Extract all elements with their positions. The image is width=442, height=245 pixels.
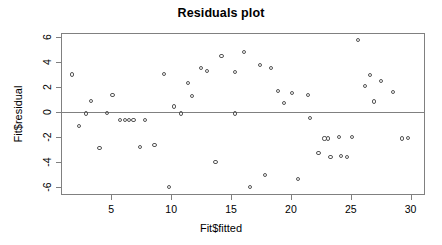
y-axis-tick-label: 4 — [41, 59, 53, 65]
residuals-scatter-plot: Residuals plot 6420-2-4-6 51015202530 Fi… — [0, 0, 442, 245]
y-axis-tick-mark — [56, 87, 61, 88]
scatter-point — [233, 111, 237, 115]
scatter-point — [306, 93, 310, 97]
zero-reference-line — [61, 112, 425, 113]
scatter-point — [326, 136, 330, 140]
scatter-point — [190, 94, 194, 98]
y-axis-tick-label: -4 — [41, 158, 53, 167]
x-axis-tick-mark — [231, 195, 232, 200]
x-axis-tick-mark — [171, 195, 172, 200]
plot-frame — [61, 33, 425, 195]
x-axis-tick-mark — [291, 195, 292, 200]
y-axis-tick-mark — [56, 112, 61, 113]
page-title: Residuals plot — [0, 6, 442, 20]
scatter-point — [167, 185, 171, 189]
y-axis-tick-label: 0 — [41, 109, 53, 115]
y-axis-tick-mark — [56, 137, 61, 138]
scatter-point — [70, 72, 74, 76]
y-axis-tick-mark — [56, 37, 61, 38]
y-axis-label: Fit$residual — [12, 86, 24, 143]
y-axis-tick-mark — [56, 62, 61, 63]
scatter-point — [282, 101, 286, 105]
scatter-point — [110, 93, 114, 97]
scatter-point — [379, 79, 383, 83]
scatter-point — [172, 104, 176, 108]
y-axis-tick-label: -6 — [41, 183, 53, 192]
scatter-point — [316, 151, 320, 155]
scatter-point — [233, 70, 237, 74]
scatter-point — [84, 111, 88, 115]
scatter-point — [179, 111, 183, 115]
x-axis-tick-label: 25 — [345, 203, 357, 215]
scatter-point — [213, 160, 217, 164]
x-axis-tick-label: 20 — [285, 203, 297, 215]
x-axis-tick-mark — [111, 195, 112, 200]
scatter-point — [152, 143, 156, 147]
x-axis-label: Fit$fitted — [0, 222, 442, 234]
scatter-point — [97, 146, 101, 150]
x-axis-tick-label: 10 — [165, 203, 177, 215]
y-axis-tick-label: -2 — [41, 133, 53, 142]
x-axis-tick-mark — [411, 195, 412, 200]
x-axis-tick-label: 30 — [405, 203, 417, 215]
scatter-point — [199, 66, 203, 70]
scatter-point — [263, 173, 267, 177]
scatter-point — [186, 81, 190, 85]
scatter-point — [372, 99, 376, 103]
scatter-point — [105, 111, 109, 115]
scatter-point — [328, 155, 332, 159]
x-axis-tick-label: 5 — [108, 203, 114, 215]
y-axis-tick-label: 6 — [41, 34, 53, 40]
x-axis-tick-mark — [351, 195, 352, 200]
y-axis-tick-mark — [56, 187, 61, 188]
y-axis-tick-label: 2 — [41, 84, 53, 90]
x-axis-tick-label: 15 — [225, 203, 237, 215]
scatter-point — [276, 89, 280, 93]
y-axis-tick-mark — [56, 162, 61, 163]
scatter-point — [391, 90, 395, 94]
